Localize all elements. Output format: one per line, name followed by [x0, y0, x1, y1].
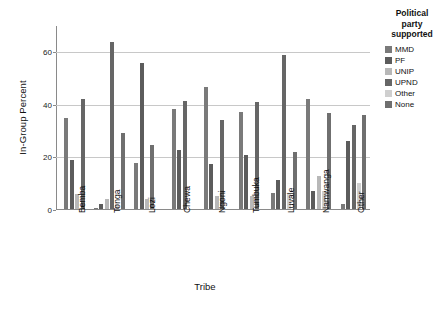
bar — [177, 150, 181, 209]
bar — [99, 204, 103, 209]
x-axis-title: Tribe — [40, 281, 370, 292]
y-tick-mark — [53, 210, 56, 211]
legend-swatch-icon — [385, 46, 392, 53]
legend: Political party supported MMDPFUNIPUPNDO… — [378, 8, 446, 111]
bar — [209, 164, 213, 209]
legend-swatch-icon — [385, 68, 392, 75]
bar — [172, 109, 176, 209]
bar — [341, 204, 345, 209]
legend-title: Political party supported — [378, 8, 446, 40]
legend-item[interactable]: MMD — [385, 45, 446, 55]
x-category-label: Bemba — [77, 186, 87, 213]
bar — [134, 163, 138, 209]
legend-swatch-icon — [385, 101, 392, 108]
bar — [311, 191, 315, 209]
bar-group — [91, 26, 126, 209]
bar-group — [126, 26, 161, 209]
y-tick-label: 0 — [48, 206, 52, 215]
bar-group — [265, 26, 300, 209]
legend-item[interactable]: Other — [385, 89, 446, 99]
bar — [346, 141, 350, 209]
legend-item-label: UNIP — [395, 67, 414, 76]
y-tick-label: 20 — [43, 153, 52, 162]
legend-item-label: PF — [395, 56, 405, 65]
bar — [94, 208, 98, 209]
x-category-label: Other — [356, 191, 366, 213]
bar — [110, 42, 114, 209]
x-category-label: Tonga — [112, 189, 122, 213]
bar-group — [335, 26, 370, 209]
legend-swatch-icon — [385, 90, 392, 97]
bar — [306, 99, 310, 209]
bar-chart: In-Group Percent 0204060 BembaTongaLoziC… — [0, 0, 447, 310]
bar — [64, 118, 68, 209]
bar — [105, 199, 109, 210]
bar — [239, 112, 243, 209]
bar — [70, 160, 74, 209]
legend-items: MMDPFUNIPUPNDOtherNone — [378, 45, 446, 110]
legend-swatch-icon — [385, 57, 392, 64]
x-category-label: Namwanga — [321, 169, 331, 213]
legend-item-label: None — [395, 100, 414, 109]
legend-item[interactable]: UPND — [385, 78, 446, 88]
y-tick-label: 40 — [43, 100, 52, 109]
x-category-label: Chewa — [182, 186, 192, 213]
x-category-label: Luvale — [286, 187, 296, 213]
legend-item-label: MMD — [395, 45, 414, 54]
legend-swatch-icon — [385, 79, 392, 86]
y-axis-title: In-Group Percent — [17, 48, 28, 188]
y-tick-label: 60 — [43, 48, 52, 57]
legend-item[interactable]: None — [385, 100, 446, 110]
bar — [204, 87, 208, 209]
legend-title-line-3: supported — [378, 29, 446, 40]
bar-group — [56, 26, 91, 209]
legend-title-line-1: Political — [378, 8, 446, 19]
bar-group — [161, 26, 196, 209]
bar — [140, 63, 144, 209]
bar — [244, 155, 248, 209]
x-category-label: Tumbuka — [251, 177, 261, 213]
x-category-label: Lozi — [147, 197, 157, 213]
legend-title-line-2: party — [378, 19, 446, 30]
legend-item[interactable]: UNIP — [385, 67, 446, 77]
legend-item-label: UPND — [395, 78, 418, 87]
x-category-label: Ngoni — [217, 190, 227, 213]
bar — [276, 180, 280, 209]
bar — [282, 55, 286, 209]
legend-item-label: Other — [395, 89, 415, 98]
bar — [271, 193, 275, 209]
legend-item[interactable]: PF — [385, 56, 446, 66]
bar-group — [196, 26, 231, 209]
bar — [352, 125, 356, 209]
